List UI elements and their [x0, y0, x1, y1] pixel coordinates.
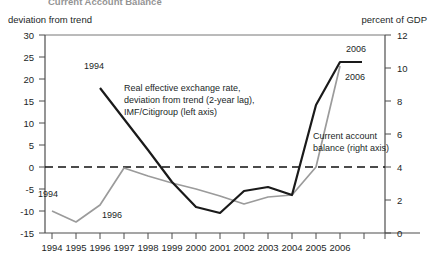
- x-tick-2000: 2000: [185, 242, 206, 253]
- gray-end-year-label: 2006: [345, 72, 365, 82]
- gray-series-annotation: Current account balance (right axis): [313, 131, 389, 153]
- left-tick-15: 15: [23, 96, 34, 107]
- right-tick-8: 8: [397, 96, 402, 107]
- black-note-line-3: IMF/Citigroup (left axis): [124, 107, 217, 117]
- left-tick-5: 5: [29, 140, 34, 151]
- black-note-line-1: Real effective exchange rate,: [124, 83, 240, 93]
- x-tick-1997: 1997: [113, 242, 134, 253]
- gray-start-year-label: 1994: [38, 189, 58, 199]
- x-tick-2001: 2001: [209, 242, 230, 253]
- x-tick-2003: 2003: [257, 242, 278, 253]
- chart-title-clipped: Current Account Balance: [48, 0, 308, 6]
- right-tick-12: 12: [397, 30, 408, 41]
- left-tick-neg15: -15: [20, 228, 34, 239]
- right-axis-title: percent of GDP: [362, 14, 427, 25]
- chart-svg: deviation from trend percent of GDP 30 2…: [0, 0, 435, 261]
- right-tick-10: 10: [397, 63, 408, 74]
- right-tick-2: 2: [397, 195, 402, 206]
- x-tick-2004: 2004: [281, 242, 302, 253]
- left-tick-30: 30: [23, 30, 34, 41]
- left-tick-25: 25: [23, 52, 34, 63]
- x-tick-2006: 2006: [329, 242, 350, 253]
- left-axis-ticks: 30 25 20 15 10 5 0 -5 -10 -15: [20, 30, 45, 239]
- right-tick-0: 0: [397, 228, 402, 239]
- right-tick-6: 6: [397, 129, 402, 140]
- left-tick-neg10: -10: [20, 206, 34, 217]
- x-tick-1996: 1996: [89, 242, 110, 253]
- left-tick-10: 10: [23, 118, 34, 129]
- black-start-year-label: 1994: [84, 61, 104, 71]
- left-tick-0: 0: [29, 162, 34, 173]
- gray-note-line-2: balance (right axis): [313, 143, 389, 153]
- black-series-annotation: Real effective exchange rate, deviation …: [124, 83, 255, 117]
- x-tick-1995: 1995: [65, 242, 86, 253]
- gray-note-line-1: Current account: [313, 131, 378, 141]
- right-tick-4: 4: [397, 162, 402, 173]
- left-tick-neg5: -5: [26, 184, 34, 195]
- gray-mid-year-label: 1996: [102, 210, 122, 220]
- chart-container: Current Account Balance deviation from t…: [0, 0, 435, 261]
- x-tick-2002: 2002: [233, 242, 254, 253]
- x-tick-2005: 2005: [305, 242, 326, 253]
- x-tick-1994: 1994: [41, 242, 62, 253]
- x-tick-1999: 1999: [161, 242, 182, 253]
- right-axis-ticks: 12 10 8 6 4 2 0: [385, 30, 408, 239]
- left-tick-20: 20: [23, 74, 34, 85]
- x-tick-1998: 1998: [137, 242, 158, 253]
- black-end-year-label: 2006: [346, 44, 366, 54]
- black-note-line-2: deviation from trend (2-year lag),: [124, 95, 255, 105]
- x-axis-ticks: 1994 1995 1996 1997 1998 1999 2000 2001 …: [41, 233, 385, 253]
- left-axis-title: deviation from trend: [8, 14, 92, 25]
